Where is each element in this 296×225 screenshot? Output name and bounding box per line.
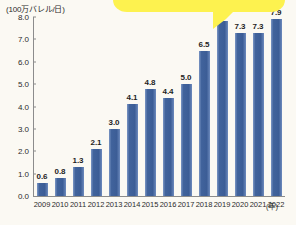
bar-value-label: 2.1: [90, 138, 101, 147]
bar: [235, 33, 246, 196]
x-axis-line: [33, 196, 285, 197]
bar-value-label: 7.3: [252, 22, 263, 31]
x-tick-label: 2018: [196, 200, 213, 209]
bar-value-label: 4.8: [144, 78, 155, 87]
x-tick-label: 2009: [34, 200, 51, 209]
bar: [163, 98, 174, 196]
bar: [217, 21, 228, 196]
x-tick-label: 2016: [160, 200, 177, 209]
y-tick-label-text: 3.0: [18, 124, 29, 133]
x-tick-label: 2020: [232, 200, 249, 209]
bar: [55, 178, 66, 196]
bar: [73, 167, 84, 196]
x-tick-label: 2011: [70, 200, 86, 209]
bar-value-label: 0.6: [36, 172, 47, 181]
bar-value-label: 1.3: [72, 156, 83, 165]
y-tick-label-text: 6.0: [18, 57, 29, 66]
x-tick-label: 2014: [124, 200, 141, 209]
bar: [37, 183, 48, 196]
yellow-callout-tail-icon: [213, 10, 235, 29]
x-axis-unit-label: (年): [266, 200, 278, 211]
y-tick-label-text: 0.0: [18, 192, 29, 201]
y-tick-label-text: 8.0: [18, 13, 29, 22]
y-tick-label-text: 1.0: [18, 169, 29, 178]
bar-value-label: 7.3: [234, 22, 245, 31]
bar-value-label: 3.0: [108, 118, 119, 127]
y-tick-label-text: 4.0: [18, 102, 29, 111]
y-axis-title: (100万バレル/日): [6, 3, 65, 14]
x-tick-label: 2012: [88, 200, 105, 209]
plot-area: [33, 17, 285, 196]
x-tick-label: 2010: [52, 200, 69, 209]
bar: [145, 89, 156, 196]
x-tick-label: 2013: [106, 200, 123, 209]
bar: [271, 19, 282, 196]
y-tick-label-text: 7.0: [18, 35, 29, 44]
bar: [91, 149, 102, 196]
bar: [253, 33, 264, 196]
bar-value-label: 0.8: [54, 167, 65, 176]
bar: [199, 51, 210, 196]
bar-value-label: 6.5: [198, 40, 209, 49]
bar-chart: (100万バレル/日) 8.07.06.05.04.03.02.01.00.0 …: [0, 0, 296, 225]
y-tick-label-text: 5.0: [18, 80, 29, 89]
y-tick-label-text: 2.0: [18, 147, 29, 156]
x-tick-label: 2021: [250, 200, 267, 209]
x-tick-label: 2019: [214, 200, 231, 209]
x-tick-label: 2015: [142, 200, 159, 209]
bar-value-label: 4.4: [162, 87, 173, 96]
bar: [109, 129, 120, 196]
x-tick-label: 2017: [178, 200, 195, 209]
bar-value-label: 5.0: [180, 73, 191, 82]
bar-value-label: 4.1: [126, 93, 137, 102]
bar: [127, 104, 138, 196]
yellow-callout-bubble: [113, 0, 285, 12]
bar: [181, 84, 192, 196]
